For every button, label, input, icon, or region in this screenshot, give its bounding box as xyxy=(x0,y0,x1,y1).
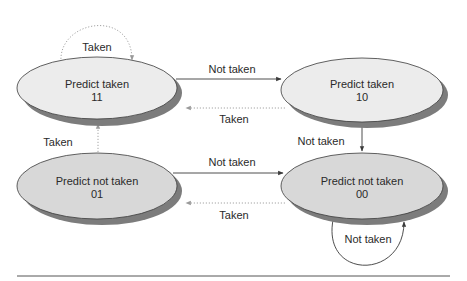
edge-label-00-to-00: Not taken xyxy=(344,233,391,245)
state-10-code: 10 xyxy=(356,91,368,103)
state-10-node xyxy=(281,58,443,122)
edge-label-11-to-11: Taken xyxy=(82,41,111,53)
state-11-code: 11 xyxy=(91,91,102,103)
edge-label-10-to-00: Not taken xyxy=(297,135,344,147)
edge-label-00-to-01: Taken xyxy=(219,209,248,221)
state-11-label: Predict taken xyxy=(65,78,129,90)
edge-label-11-to-10: Not taken xyxy=(208,63,255,75)
state-00-code: 00 xyxy=(356,188,368,200)
edge-label-10-to-11: Taken xyxy=(219,113,248,125)
state-00: Predict not taken 00 xyxy=(281,153,448,225)
edge-label-01-to-11: Taken xyxy=(43,136,72,148)
edge-label-01-to-00: Not taken xyxy=(208,156,255,168)
state-11: Predict taken 11 xyxy=(17,57,182,126)
state-01-code: 01 xyxy=(91,188,103,200)
state-01-label: Predict not taken xyxy=(56,175,139,187)
state-10-label: Predict taken xyxy=(330,78,394,90)
state-10: Predict taken 10 xyxy=(281,58,448,128)
state-01: Predict not taken 01 xyxy=(17,153,182,225)
branch-prediction-state-diagram: Taken Not taken Taken Not taken Taken No… xyxy=(0,0,467,281)
state-00-label: Predict not taken xyxy=(321,175,404,187)
